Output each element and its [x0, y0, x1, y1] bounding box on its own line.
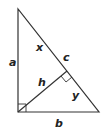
- label-c: c: [63, 51, 70, 64]
- label-a: a: [9, 56, 16, 69]
- triangle-outline: [18, 9, 99, 112]
- label-h: h: [38, 76, 46, 89]
- right-triangle-diagram: a x c h y b: [0, 0, 106, 132]
- right-angle-mark-altitude: [61, 76, 72, 82]
- label-x: x: [35, 41, 44, 54]
- label-y: y: [72, 89, 80, 102]
- label-b: b: [55, 117, 63, 130]
